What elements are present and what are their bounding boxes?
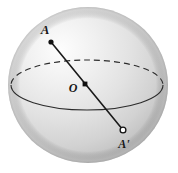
point-a-marker — [48, 39, 53, 44]
point-a-prime-label: A' — [117, 137, 130, 151]
point-o-label: O — [69, 81, 78, 95]
point-a-prime-marker — [120, 127, 126, 133]
sphere-diagram-figure: A O A' — [0, 0, 178, 173]
sphere-rim-shadow — [8, 7, 168, 163]
point-a-label: A — [40, 22, 50, 37]
point-o-marker — [83, 82, 88, 87]
sphere-diagram-canvas: A O A' — [0, 0, 178, 173]
